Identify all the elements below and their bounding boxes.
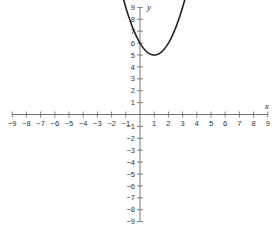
y-tick-label: 6 <box>131 39 135 48</box>
x-tick-label: 4 <box>195 119 199 128</box>
y-tick-label: −6 <box>126 182 135 191</box>
x-tick-label: 5 <box>209 119 213 128</box>
x-tick-label: 9 <box>266 119 270 128</box>
x-tick-label: −7 <box>36 119 45 128</box>
y-tick-label: 1 <box>131 98 135 107</box>
coordinate-plane: −9−8−7−6−5−4−3−2−1123456789−9−8−7−6−5−4−… <box>0 0 278 232</box>
y-tick-label: −5 <box>126 170 135 179</box>
y-tick-label: −8 <box>126 205 135 214</box>
x-tick-label: 8 <box>252 119 256 128</box>
y-tick-label: −4 <box>126 158 135 167</box>
y-tick-label: 5 <box>131 51 135 60</box>
x-tick-label: 6 <box>223 119 227 128</box>
x-tick-label: −3 <box>93 119 102 128</box>
y-tick-label: 2 <box>131 86 135 95</box>
x-tick-label: −2 <box>107 119 116 128</box>
x-axis-label: x <box>264 101 269 111</box>
y-tick-label: 4 <box>131 63 135 72</box>
x-tick-label: −6 <box>51 119 60 128</box>
x-tick-label: −8 <box>22 119 31 128</box>
x-tick-label: 7 <box>237 119 241 128</box>
y-tick-label: −9 <box>126 217 135 226</box>
x-tick-label: −5 <box>65 119 74 128</box>
x-tick-label: −4 <box>79 119 88 128</box>
y-tick-label: −2 <box>126 134 135 143</box>
y-tick-label: −3 <box>126 146 135 155</box>
x-tick-label: −9 <box>8 119 17 128</box>
x-tick-label: 2 <box>166 119 170 128</box>
y-tick-label: −7 <box>126 193 135 202</box>
y-tick-label: −1 <box>126 122 135 131</box>
y-axis-label: y <box>146 2 151 12</box>
x-tick-label: 3 <box>181 119 185 128</box>
x-tick-label: 1 <box>152 119 156 128</box>
y-tick-label: 3 <box>131 74 135 83</box>
y-tick-label: 9 <box>131 3 135 12</box>
